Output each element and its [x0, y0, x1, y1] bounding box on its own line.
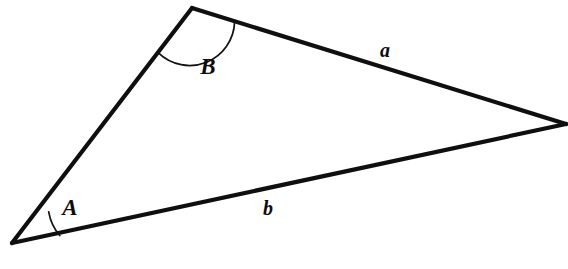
triangle-diagram: A B a b [0, 0, 568, 269]
edge-bc-line [192, 8, 566, 124]
side-b-label: b [263, 198, 273, 218]
triangle-svg [0, 0, 568, 269]
edge-ab-line [12, 8, 192, 243]
side-a-label: a [380, 40, 390, 60]
angle-b-label: B [200, 55, 215, 78]
angle-b-arc [158, 22, 234, 66]
angle-a-label: A [62, 196, 77, 219]
edge-ac-line [12, 124, 566, 243]
